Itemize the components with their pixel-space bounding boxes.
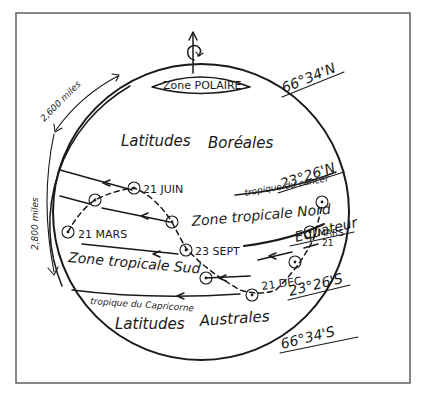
boreal-label: Boréales: [208, 134, 273, 152]
austral-label: Australes: [198, 307, 270, 330]
north-latitudes-label: Latitudes: [121, 132, 191, 150]
sun-icon-1: [89, 194, 101, 206]
path-line-6: [206, 276, 250, 278]
date-sept-label: 23 SEPT: [195, 245, 240, 258]
sun-icon-march-left: [62, 226, 74, 238]
date-march-left-label: 21 MARS: [78, 228, 127, 241]
path-line-1: [60, 170, 132, 190]
tropic-capricorn-label: tropique du Capricorne: [90, 296, 195, 313]
sun-icon-sept: [180, 244, 192, 256]
date-march-right-2: 21: [322, 238, 333, 248]
sun-icon-june: [128, 182, 140, 194]
polar-zone-label: Zone POLAIRE: [163, 79, 242, 92]
sun-icon-dec: [246, 289, 258, 301]
path-line-2: [60, 196, 90, 204]
rotation-arrow-icon: [188, 32, 203, 73]
path-line-3: [102, 208, 170, 222]
lat-arctic-label: 66°34'N: [279, 59, 338, 95]
south-latitudes-label: Latitudes: [115, 315, 185, 333]
distance-lower-label: 2,800 miles: [30, 197, 40, 250]
date-june-label: 21 JUIN: [143, 183, 183, 196]
capricorn-line: [72, 290, 240, 296]
distance-upper-label: 2,600 miles: [38, 79, 82, 123]
diagram-canvas: Zone POLAIRE 66°34'N 23°26'N Equateur 23…: [0, 0, 423, 397]
date-march-right-1: MARS: [318, 228, 344, 238]
